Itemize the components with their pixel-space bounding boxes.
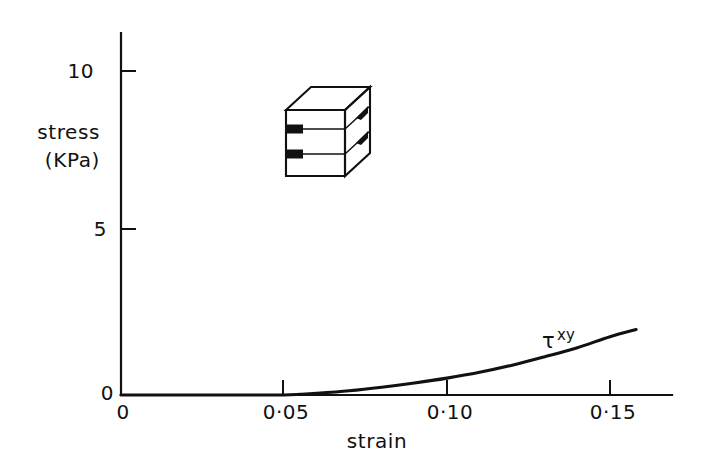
block-front-face: [286, 110, 345, 176]
curve-label-tau-superscript: xy: [557, 326, 575, 344]
shear-block-diagram: [286, 87, 370, 176]
axes-group: [121, 33, 672, 395]
shear-arrow-front-lower: [287, 150, 303, 159]
x-tick-label-010: 0·10: [427, 400, 474, 424]
y-axis-title-line2: (KPa): [45, 148, 100, 172]
x-tick-label-015: 0·15: [590, 400, 637, 424]
y-tick-label-10: 10: [68, 59, 94, 83]
y-axis-title-line1: stress: [37, 120, 100, 144]
curve-label-tau-symbol: τ: [542, 329, 555, 353]
x-tick-label-0: 0: [116, 400, 129, 424]
y-tick-label-5: 5: [94, 217, 107, 241]
block-right-face: [345, 87, 370, 176]
shear-arrow-right-lower: [356, 131, 368, 145]
y-tick-label-0: 0: [101, 381, 114, 405]
y-tick-marks: [121, 71, 136, 229]
plot-canvas: 10 5 0 0 0·05 0·10 0·15 stress (KPa) str…: [0, 0, 707, 466]
stress-strain-figure: 10 5 0 0 0·05 0·10 0·15 stress (KPa) str…: [0, 0, 707, 466]
shear-arrow-right-upper: [356, 106, 368, 120]
x-axis-title: strain: [347, 429, 408, 453]
x-tick-label-005: 0·05: [263, 400, 310, 424]
shear-arrow-front-upper: [287, 125, 303, 134]
